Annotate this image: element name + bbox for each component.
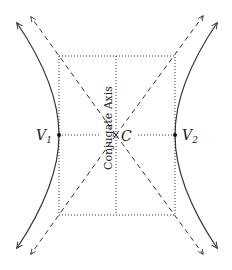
vertex-v2 [173,133,177,137]
center-label: C [121,128,132,144]
hyperbola-diagram: V1 V2 C Conjugate Axis [0,0,232,270]
conjugate-axis-label: Conjugate Axis [102,86,115,170]
vertex-v1 [57,133,61,137]
vertex-v1-label: V1 [36,127,52,145]
asymptote-1b [116,135,203,254]
vertex-v2-label: V2 [182,127,198,145]
asymptote-2 [116,16,203,135]
